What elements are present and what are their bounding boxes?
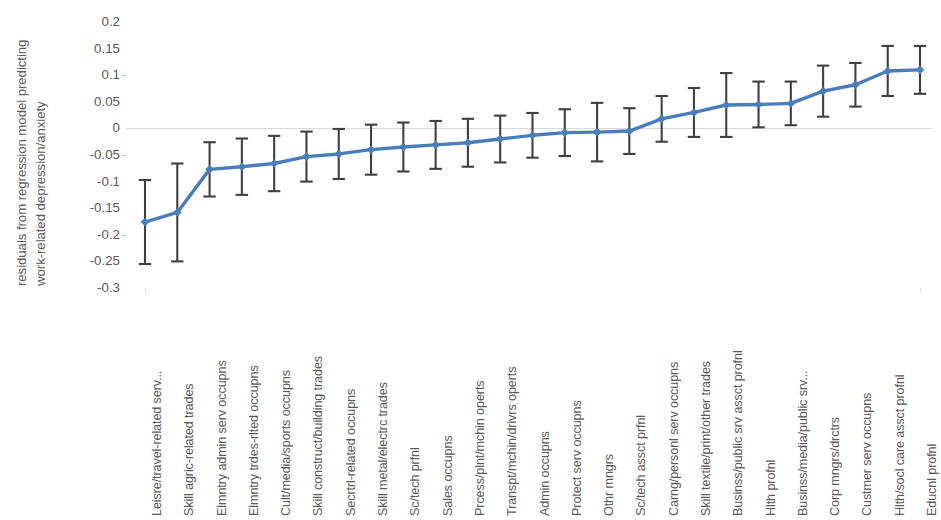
data-point-marker (431, 141, 440, 150)
chart-canvas: residuals from regression model predicti… (0, 0, 941, 520)
x-axis-category-label: Hlth/socl care assct profnl (893, 375, 907, 516)
x-axis-category-label: Sc/tech assct prfnl (634, 415, 648, 516)
data-point-marker (754, 100, 763, 109)
data-point-marker (528, 131, 537, 140)
data-point-marker (787, 99, 796, 108)
data-point-marker (819, 87, 828, 96)
x-axis-category-label: Skill metal/electrc trades (376, 382, 390, 516)
data-point-marker (238, 162, 247, 171)
y-axis-tick-label: -0.1 (97, 175, 120, 188)
x-axis-category-label: Skill textile/print/other trades (699, 361, 713, 516)
data-point-marker (302, 152, 311, 161)
x-axis-category-label: Elmntry admin serv occupns (215, 360, 229, 516)
data-point-marker (399, 143, 408, 152)
y-axis-tick-label: -0.15 (90, 201, 120, 214)
y-axis-tick-label: 0 (113, 121, 120, 134)
data-point-marker (560, 128, 569, 137)
y-axis-tick-label: -0.3 (97, 281, 120, 294)
data-point-marker (334, 150, 343, 159)
x-axis-category-label: Sc/tech prfnl (408, 447, 422, 516)
data-point-marker (367, 145, 376, 154)
x-axis-category-label: Skill agric-related trades (182, 384, 196, 517)
y-axis-tick-label: 0.2 (102, 15, 121, 28)
error-bars (139, 46, 926, 264)
x-axis-category-label: Skill construct/building trades (311, 356, 325, 516)
x-axis-category-labels: Leisre/travel-related serv...Skill agric… (126, 288, 932, 520)
y-axis-tick-label: -0.05 (90, 148, 120, 161)
x-axis-category-label: Businss/media/public srv... (796, 371, 810, 516)
x-axis-category-label: Leisre/travel-related serv... (150, 371, 164, 516)
x-axis-category-label: Protect serv occupns (570, 400, 584, 516)
x-axis-tick-mark (145, 288, 146, 292)
x-axis-category-label: Elmntry trdes-rlted occupns (247, 365, 261, 516)
data-point-marker (722, 101, 731, 110)
y-axis-tick-labels: 0.20.150.10.050-0.05-0.1-0.15-0.2-0.25-0… (78, 0, 120, 300)
y-axis-tick-label: 0.15 (94, 42, 120, 55)
data-point-marker (593, 128, 602, 137)
x-axis-category-label: Corp mngrs/drctrs (828, 417, 842, 516)
y-axis-title-line-2: work-related depression/anxiety (33, 101, 48, 286)
y-axis-tick-mark (122, 75, 127, 76)
y-axis-title-line-1: residuals from regression model predicti… (14, 40, 29, 286)
x-axis-category-label: Sales occupns (441, 435, 455, 516)
data-point-marker (657, 115, 666, 124)
y-axis-title: residuals from regression model predicti… (0, 0, 64, 300)
x-axis-category-label: Admin occupns (538, 431, 552, 516)
series-line-with-errorbars (126, 22, 932, 288)
x-axis-category-label: Educnl profnl (925, 444, 939, 516)
x-axis-category-label: Businss/public srv assct profnl (731, 350, 745, 516)
data-point-marker (270, 159, 279, 168)
y-axis-tick-label: 0.05 (94, 95, 120, 108)
x-axis-category-label: Hlth profnl (764, 460, 778, 516)
x-axis-category-label: Secrtrl-related occupns (344, 389, 358, 516)
y-axis-tick-label: -0.2 (97, 228, 120, 241)
y-axis-tick-label: -0.25 (90, 254, 120, 267)
x-axis-tick-mark (920, 288, 921, 292)
data-point-marker (625, 127, 634, 136)
y-axis-tick-mark (122, 155, 127, 156)
x-axis-category-label: Transpt/mchin/drivrs operts (505, 367, 519, 516)
x-axis-category-label: Othr mngrs (602, 454, 616, 516)
y-axis-tick-mark (122, 235, 127, 236)
x-axis-category-label: Carng/personl serv occupns (667, 362, 681, 516)
plot-area (126, 22, 932, 288)
data-point-marker (496, 135, 505, 144)
data-point-marker (464, 138, 473, 147)
data-point-marker (916, 66, 925, 75)
x-axis-category-label: Prcess/plnt/mchin operts (473, 381, 487, 517)
x-axis-category-label: Custmer serv occupns (860, 393, 874, 516)
data-point-marker (690, 108, 699, 117)
y-axis-tick-label: 0.1 (102, 68, 121, 81)
data-point-marker (141, 218, 150, 227)
x-axis-category-label: Cult/media/sports occupns (279, 370, 293, 516)
